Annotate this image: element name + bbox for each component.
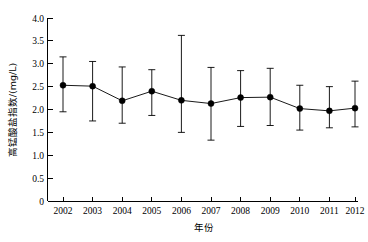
data-point-marker: [208, 101, 214, 107]
y-tick-label: 2.0: [32, 105, 44, 115]
x-tick-label: 2006: [172, 206, 191, 216]
x-tick-label: 2008: [231, 206, 250, 216]
permanganate-index-line-chart: 4.0 3.5 3.0 2.5 2.0 1.5 1.0 0.5 0 高锰酸盐指数…: [0, 0, 368, 242]
y-tick-label: 3.5: [32, 36, 44, 46]
x-tick-label: 2002: [54, 206, 73, 216]
data-point-marker: [119, 98, 125, 104]
x-tick-label: 2012: [346, 206, 365, 216]
y-tick-label: 0.5: [32, 174, 44, 184]
data-point-marker: [297, 106, 303, 112]
data-point-marker: [267, 94, 273, 100]
data-point-marker: [60, 82, 66, 88]
y-axis-title: 高锰酸盐指数/(mg/L): [7, 63, 18, 157]
y-tick-label: 3.0: [32, 59, 44, 69]
y-tick-label: 2.5: [32, 82, 44, 92]
x-tick-label: 2010: [290, 206, 309, 216]
data-point-marker: [238, 95, 244, 101]
x-axis-title: 年份: [194, 222, 214, 233]
x-tick-label: 2005: [142, 206, 161, 216]
chart-figure: 4.0 3.5 3.0 2.5 2.0 1.5 1.0 0.5 0 高锰酸盐指数…: [0, 0, 368, 242]
y-tick-label: 0: [39, 197, 44, 207]
data-point-marker: [90, 83, 96, 89]
y-axis-tick-labels: 4.0 3.5 3.0 2.5 2.0 1.5 1.0 0.5 0: [32, 14, 44, 207]
y-tick-label: 1.5: [32, 128, 44, 138]
data-point-marker: [149, 88, 155, 94]
y-tick-label: 1.0: [32, 151, 44, 161]
data-point-marker: [326, 108, 332, 114]
x-tick-label: 2009: [261, 206, 280, 216]
x-tick-label: 2011: [320, 206, 339, 216]
data-point-marker: [178, 97, 184, 103]
x-tick-label: 2003: [83, 206, 102, 216]
x-tick-label: 2007: [202, 206, 221, 216]
x-tick-label: 2004: [113, 206, 132, 216]
data-point-marker: [352, 105, 358, 111]
y-tick-label: 4.0: [32, 14, 44, 24]
